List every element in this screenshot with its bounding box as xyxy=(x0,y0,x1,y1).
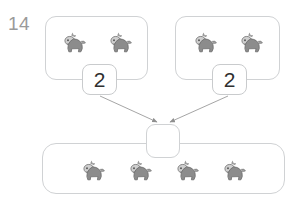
horse-icon xyxy=(59,29,89,59)
arrow-left-to-answer xyxy=(100,96,157,122)
horse-icon xyxy=(236,29,266,59)
horse-icon xyxy=(219,157,249,187)
part-count-left[interactable]: 2 xyxy=(82,64,117,95)
horse-icon xyxy=(105,29,135,59)
worksheet-question: 14 xyxy=(0,0,296,204)
horse-icon xyxy=(190,29,220,59)
answer-input-box[interactable] xyxy=(146,124,180,158)
part-count-right[interactable]: 2 xyxy=(212,64,247,95)
question-number: 14 xyxy=(8,14,30,33)
horse-icon xyxy=(78,157,108,187)
horse-icon xyxy=(172,157,202,187)
arrow-right-to-answer xyxy=(170,96,228,122)
horse-icon xyxy=(125,157,155,187)
